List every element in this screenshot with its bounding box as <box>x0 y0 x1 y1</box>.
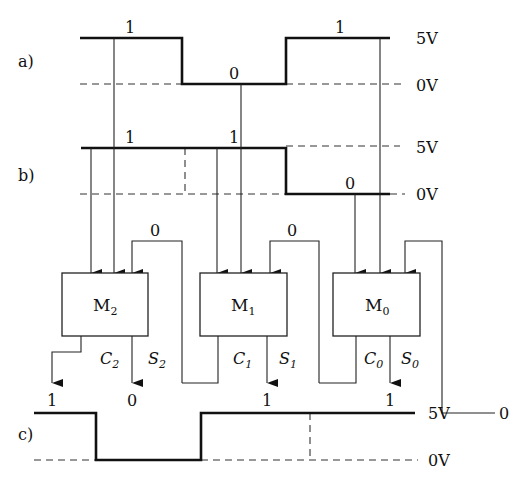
carry-in-m0: 0 <box>499 404 509 423</box>
out-s1: 1 <box>262 391 272 410</box>
block-m2-sub: 2 <box>110 305 117 318</box>
level-0v-b: 0V <box>416 185 438 204</box>
waveform-a: a) 1 0 1 5V 0V <box>18 18 438 95</box>
block-m2-name: M <box>93 295 110 315</box>
carry-wires: 0 0 0 <box>132 221 509 423</box>
out-s0: 1 <box>385 391 395 410</box>
svg-text:S2: S2 <box>148 349 166 371</box>
s0-label: S <box>401 349 412 368</box>
output-wires: C2 S2 C1 S1 C0 S0 1 0 1 1 <box>47 336 419 410</box>
s2-label: S <box>148 349 159 368</box>
block-m2: M2 <box>62 273 148 336</box>
svg-text:C1: C1 <box>233 349 252 371</box>
panel-b-label: b) <box>18 166 34 185</box>
block-m0-sub: 0 <box>382 305 389 318</box>
c0-label: C <box>364 349 376 368</box>
c2-label: C <box>100 349 112 368</box>
bit-b1: 1 <box>229 128 239 147</box>
panel-c-label: c) <box>18 425 33 444</box>
svg-text:S1: S1 <box>279 349 297 371</box>
level-5v-a: 5V <box>416 29 438 48</box>
block-m0-name: M <box>365 295 382 315</box>
bit-a0: 1 <box>335 18 345 37</box>
block-m0: M0 <box>333 273 420 336</box>
level-5v-b: 5V <box>416 138 438 157</box>
waveform-b: b) 1 1 0 5V 0V <box>18 128 438 204</box>
panel-a-label: a) <box>18 52 34 71</box>
svg-text:C0: C0 <box>364 349 383 371</box>
bit-b0: 0 <box>345 174 355 193</box>
block-m1-sub: 1 <box>248 305 255 318</box>
out-c2: 1 <box>47 391 57 410</box>
adder-timing-diagram: a) 1 0 1 5V 0V b) 1 1 0 5V 0V 0 <box>0 0 522 498</box>
carry-in-m2: 0 <box>150 221 160 240</box>
level-0v-a: 0V <box>416 76 438 95</box>
out-s2: 0 <box>127 391 137 410</box>
svg-text:C2: C2 <box>100 349 119 371</box>
svg-text:S0: S0 <box>401 349 419 371</box>
c1-label: C <box>233 349 245 368</box>
bit-a1: 0 <box>229 64 239 83</box>
level-0v-c: 0V <box>428 451 450 470</box>
bit-a2: 1 <box>125 18 135 37</box>
carry-in-m1: 0 <box>287 221 297 240</box>
level-5v-c: 5V <box>428 404 450 423</box>
bit-b2: 1 <box>125 128 135 147</box>
block-m1: M1 <box>200 273 287 336</box>
waveform-c: c) 5V 0V <box>18 404 450 470</box>
block-m1-name: M <box>231 295 248 315</box>
s1-label: S <box>279 349 290 368</box>
